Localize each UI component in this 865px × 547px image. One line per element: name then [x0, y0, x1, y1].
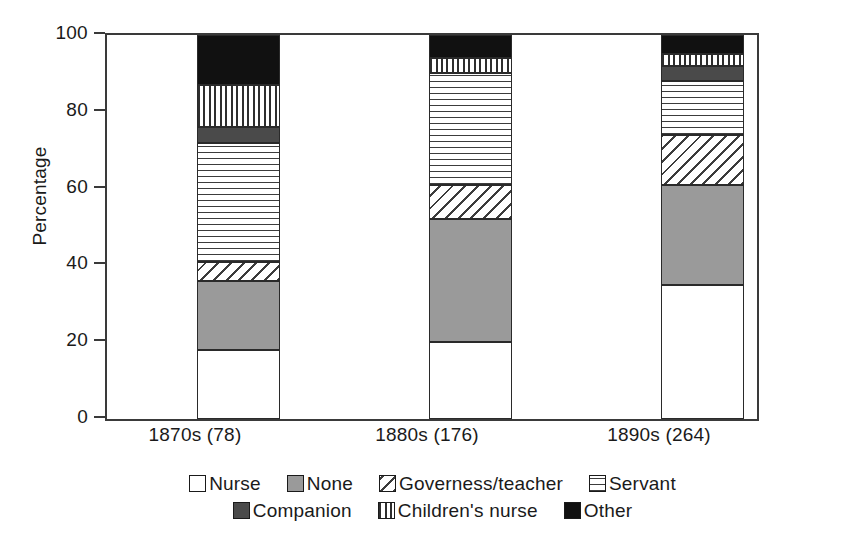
bar-1880s-176-[interactable]	[429, 35, 512, 419]
y-axis-tick	[94, 339, 105, 341]
bar-segment-other[interactable]	[197, 35, 280, 85]
bar-segment-children-s-nurse[interactable]	[661, 54, 744, 66]
legend-item-nurse[interactable]: Nurse	[189, 473, 261, 495]
legend-swatch-icon	[378, 502, 395, 519]
plot-area	[105, 33, 759, 421]
legend-label: Children's nurse	[398, 500, 538, 522]
bar-segment-children-s-nurse[interactable]	[429, 58, 512, 73]
bar-segment-servant[interactable]	[429, 73, 512, 184]
bar-segment-companion[interactable]	[661, 66, 744, 81]
legend-label: None	[307, 473, 353, 495]
x-axis-label-2: 1890s (264)	[539, 424, 779, 446]
y-axis-tick-label: 100	[10, 23, 88, 42]
y-axis-tick-label-wrap: 60	[0, 177, 88, 197]
x-axis-label-1: 1880s (176)	[307, 424, 547, 446]
bar-segment-companion[interactable]	[197, 127, 280, 142]
y-axis-tick	[94, 32, 105, 34]
legend-label: Companion	[253, 500, 352, 522]
y-axis-tick	[94, 109, 105, 111]
legend-item-companion[interactable]: Companion	[233, 500, 352, 522]
bar-1870s-78-[interactable]	[197, 35, 280, 419]
legend-item-none[interactable]: None	[287, 473, 353, 495]
legend-label: Nurse	[209, 473, 261, 495]
y-axis-tick	[94, 262, 105, 264]
legend-item-children-s-nurse[interactable]: Children's nurse	[378, 500, 538, 522]
legend-swatch-icon	[233, 502, 250, 519]
legend-swatch-icon	[379, 475, 396, 492]
bar-segment-nurse[interactable]	[661, 285, 744, 419]
bar-segment-servant[interactable]	[197, 143, 280, 262]
legend-row-1: NurseNoneGoverness/teacherServant	[105, 470, 760, 497]
y-axis-tick	[94, 416, 105, 418]
bar-segment-none[interactable]	[661, 185, 744, 285]
bar-segment-servant[interactable]	[661, 81, 744, 135]
bar-segment-nurse[interactable]	[429, 342, 512, 419]
legend-label: Governess/teacher	[399, 473, 563, 495]
y-axis-tick-label-wrap: 100	[0, 23, 88, 43]
y-axis-tick-label: 80	[10, 100, 88, 119]
y-axis-tick-label: 60	[10, 177, 88, 196]
bar-segment-nurse[interactable]	[197, 350, 280, 419]
bar-segment-other[interactable]	[429, 35, 512, 58]
legend-item-governess-teacher[interactable]: Governess/teacher	[379, 473, 563, 495]
y-axis-tick	[94, 186, 105, 188]
stacked-bar-chart: Percentage 100806040200 1870s (78)1880s …	[0, 0, 865, 547]
y-axis-tick-label: 40	[10, 253, 88, 272]
legend-swatch-icon	[189, 475, 206, 492]
bar-segment-other[interactable]	[661, 35, 744, 54]
bar-segment-governess-teacher[interactable]	[429, 185, 512, 220]
legend-label: Servant	[609, 473, 676, 495]
bar-segment-none[interactable]	[197, 281, 280, 350]
legend-item-other[interactable]: Other	[564, 500, 633, 522]
y-axis-tick-label: 20	[10, 330, 88, 349]
y-axis-tick-label-wrap: 80	[0, 100, 88, 120]
bar-segment-none[interactable]	[429, 219, 512, 342]
legend-row-2: CompanionChildren's nurseOther	[105, 497, 760, 524]
legend-item-servant[interactable]: Servant	[589, 473, 676, 495]
legend-label: Other	[584, 500, 633, 522]
bar-segment-governess-teacher[interactable]	[661, 135, 744, 185]
y-axis-tick-label-wrap: 40	[0, 253, 88, 273]
x-axis-label-0: 1870s (78)	[75, 424, 315, 446]
legend-swatch-icon	[564, 502, 581, 519]
bar-segment-governess-teacher[interactable]	[197, 262, 280, 281]
legend: NurseNoneGoverness/teacherServant Compan…	[105, 470, 760, 524]
y-axis-tick-label-wrap: 20	[0, 330, 88, 350]
bar-segment-children-s-nurse[interactable]	[197, 85, 280, 127]
legend-swatch-icon	[287, 475, 304, 492]
bar-1890s-264-[interactable]	[661, 35, 744, 419]
legend-swatch-icon	[589, 475, 606, 492]
